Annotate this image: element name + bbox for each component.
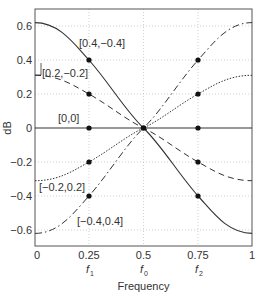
svg-text:0.2: 0.2 bbox=[17, 88, 32, 100]
svg-text:−0.2: −0.2 bbox=[10, 156, 32, 168]
svg-text:0.5: 0.5 bbox=[136, 249, 151, 261]
svg-text:1: 1 bbox=[249, 249, 255, 261]
x-axis-label: Frequency bbox=[118, 280, 170, 292]
svg-text:0.4: 0.4 bbox=[17, 54, 32, 66]
y-axis-label: dB bbox=[1, 121, 13, 134]
annotation-00: [0,0] bbox=[58, 112, 79, 124]
annotation-bracket bbox=[35, 63, 41, 75]
y-tick-labels: 0.6 0.4 0.2 0 −0.2 −0.4 −0.6 bbox=[10, 20, 32, 236]
svg-text:2: 2 bbox=[199, 270, 203, 277]
svg-text:1: 1 bbox=[90, 270, 94, 277]
svg-text:0: 0 bbox=[34, 249, 40, 261]
x-freq-labels: f 1 f 0 f 2 bbox=[86, 263, 203, 277]
svg-text:−0.4: −0.4 bbox=[10, 190, 32, 202]
svg-text:0: 0 bbox=[26, 122, 32, 134]
annotation-m04: [−0.4,0.4] bbox=[77, 215, 123, 227]
annotation-m02: [−0.2,0.2] bbox=[39, 181, 85, 193]
svg-text:0.6: 0.6 bbox=[17, 20, 32, 32]
annotation-04: [0.4,−0.4] bbox=[79, 37, 125, 49]
chart: [0.4,−0.4] [0.2,−0.2] [0,0] [−0.2,0.2] [… bbox=[0, 0, 259, 295]
annotation-02: [0.2,−0.2] bbox=[42, 67, 88, 79]
svg-text:0.25: 0.25 bbox=[78, 249, 99, 261]
svg-text:0.75: 0.75 bbox=[187, 249, 208, 261]
x-tick-labels: 0 0.25 0.5 0.75 1 bbox=[34, 249, 255, 261]
svg-text:−0.6: −0.6 bbox=[10, 224, 32, 236]
svg-text:0: 0 bbox=[144, 270, 148, 277]
